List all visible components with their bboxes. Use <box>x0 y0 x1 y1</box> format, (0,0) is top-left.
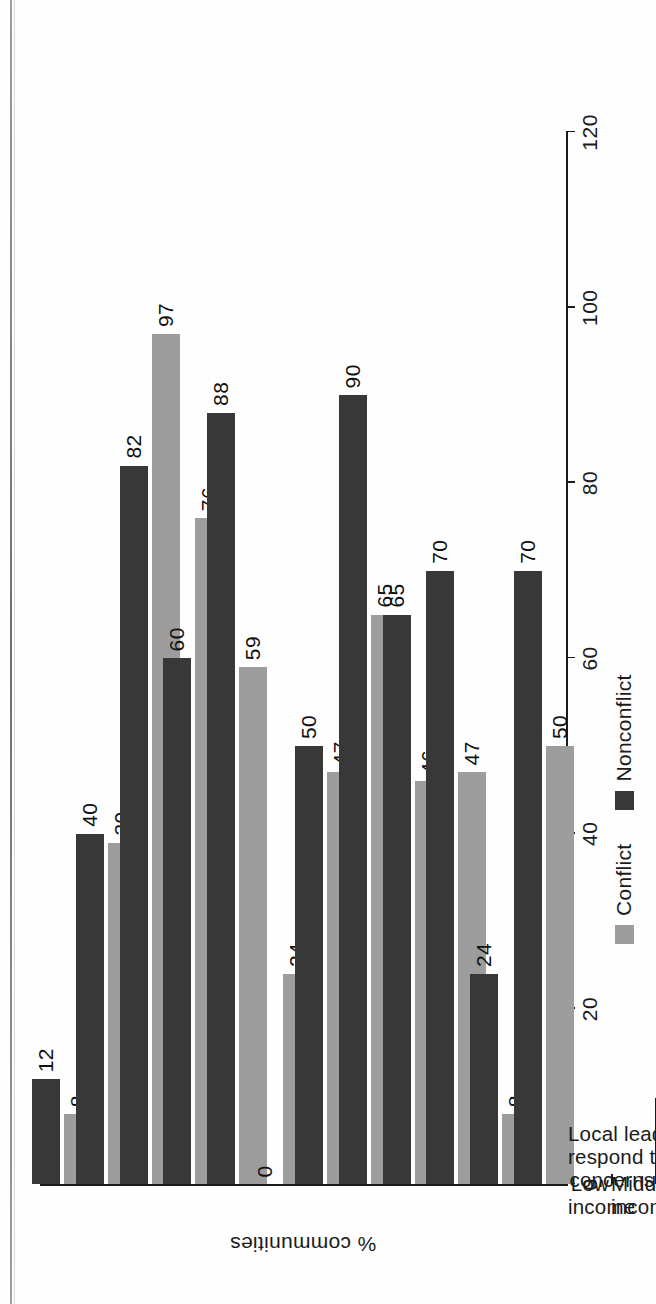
bar-nonconflict <box>295 746 323 1184</box>
bar-value-label: 70 <box>516 540 540 564</box>
bar-nonconflict <box>207 413 235 1184</box>
bar-value-label: 0 <box>253 1165 277 1177</box>
bar-nonconflict <box>339 395 367 1184</box>
bar-nonconflict <box>426 571 454 1185</box>
bar-nonconflict <box>163 658 191 1184</box>
legend-item-conflict: Conflict <box>612 844 636 944</box>
bar-value-label: 47 <box>460 741 484 765</box>
bar-nonconflict <box>470 974 498 1184</box>
bar-value-label: 70 <box>428 540 452 564</box>
legend-label: Conflict <box>612 844 636 916</box>
bar-value-label: 40 <box>78 803 102 827</box>
legend-swatch-icon <box>615 791 634 810</box>
bar-value-label: 59 <box>241 636 265 660</box>
bar-nonconflict <box>76 834 104 1185</box>
plot-area: 8123940978276605988240475065904665477082… <box>40 132 566 1184</box>
bar-nonconflict <box>514 571 542 1185</box>
bar-value-label: 12 <box>34 1048 58 1072</box>
grouped-bar-chart: 020406080100120 % communities 8123940978… <box>0 0 656 1304</box>
rotated-figure-stage: 020406080100120 % communities 8123940978… <box>0 0 656 1304</box>
bar-value-label: 88 <box>209 382 233 406</box>
bar-conflict <box>239 667 267 1184</box>
bar-nonconflict <box>32 1079 60 1184</box>
bar-nonconflict <box>383 615 411 1185</box>
bar-nonconflict <box>120 466 148 1185</box>
category-axis: Low incomeMiddle incomeLocal leaders res… <box>568 132 656 1184</box>
bar-value-label: 24 <box>472 943 496 967</box>
legend-label: Nonconflict <box>612 674 636 781</box>
value-axis-title: % communities <box>230 1232 376 1256</box>
bar-value-label: 50 <box>297 715 321 739</box>
bar-value-label: 97 <box>154 303 178 327</box>
value-axis-spine <box>40 1184 566 1186</box>
chart-legend: ConflictNonconflict <box>612 674 636 944</box>
legend-swatch-icon <box>615 925 634 944</box>
bar-value-label: 90 <box>341 364 365 388</box>
bar-value-label: 65 <box>385 583 409 607</box>
bar-value-label: 60 <box>165 627 189 651</box>
category-group-label: Local leaders respond to local concerns <box>568 1122 656 1192</box>
legend-item-nonconflict: Nonconflict <box>612 674 636 809</box>
bar-value-label: 82 <box>122 434 146 458</box>
